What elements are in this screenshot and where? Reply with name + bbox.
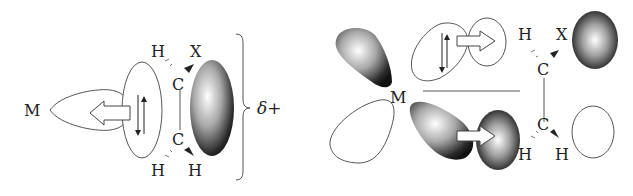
- x-top-right-label: X: [190, 42, 202, 61]
- h-top-left-label: H: [151, 42, 165, 61]
- c-bottom-label: C: [537, 115, 549, 134]
- h-bottom-right-label: H: [555, 145, 569, 164]
- d-lobe-upper-left: [336, 28, 392, 87]
- metal-label: M: [24, 101, 40, 120]
- hashed-bond-bottom: [165, 150, 172, 157]
- left-panel: M H X C C H H δ+: [24, 34, 281, 180]
- h-orbital-outline: [572, 106, 614, 158]
- c-top-label: C: [537, 60, 549, 79]
- c-bottom-label: C: [172, 130, 184, 149]
- d-lobe-lower-left: [330, 100, 394, 163]
- pi-star-orbital: [190, 60, 234, 156]
- charge-label: δ+: [257, 98, 281, 118]
- wedge-bond-top: [550, 50, 559, 58]
- pi-orbital-upper: [411, 23, 468, 81]
- wedge-bond-bottom: [184, 147, 194, 156]
- hashed-bond-top: [165, 59, 172, 66]
- wedge-bond-bottom: [550, 129, 559, 138]
- h-bottom-right-label: H: [188, 161, 202, 180]
- right-panel: M H X C C H H: [330, 11, 618, 170]
- wedge-bond-top: [184, 64, 194, 73]
- brace: [236, 34, 250, 180]
- h-top-left-label: H: [518, 25, 532, 44]
- metal-label: M: [390, 88, 406, 107]
- hashed-bond-top: [531, 50, 538, 57]
- x-top-right-label: X: [556, 25, 568, 44]
- h-bottom-left-label: H: [151, 161, 165, 180]
- c-top-label: C: [172, 75, 184, 94]
- orbital-diagram: M H X C C H H δ+: [0, 0, 633, 196]
- x-orbital-shaded: [572, 11, 618, 69]
- h-bottom-left-label: H: [518, 145, 532, 164]
